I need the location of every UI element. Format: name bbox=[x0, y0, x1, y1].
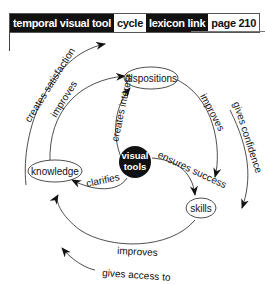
arc-gives-access-to bbox=[62, 248, 95, 270]
arc-skills-to-knowledge bbox=[57, 195, 195, 244]
label-clarifies: clarifies bbox=[85, 171, 120, 189]
svg-text:visual: visual bbox=[122, 150, 149, 161]
node-visual-tools: visual tools bbox=[119, 146, 151, 178]
svg-text:knowledge: knowledge bbox=[31, 166, 79, 177]
node-skills: skills bbox=[186, 198, 216, 218]
svg-text:tools: tools bbox=[124, 161, 147, 172]
cycle-diagram: dispositions knowledge skills visual too… bbox=[0, 0, 265, 284]
label-creates-interest: creates interest bbox=[109, 73, 134, 142]
node-knowledge: knowledge bbox=[28, 160, 82, 182]
svg-text:skills: skills bbox=[190, 203, 212, 214]
label-improves-right: improves bbox=[198, 92, 227, 133]
label-gives-access-to: gives access to bbox=[102, 267, 171, 283]
label-improves-bottom: improves bbox=[117, 245, 158, 258]
label-gives-confidence: gives confidence bbox=[231, 100, 265, 175]
